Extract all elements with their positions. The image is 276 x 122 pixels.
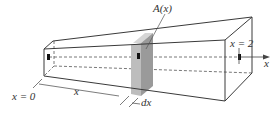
position-label: x (73, 85, 79, 97)
solid-diagram: A(x) x = 2 x x = 0 x dx (0, 0, 276, 122)
right-bottom-diagonal (225, 73, 252, 101)
end-label: x = 2 (229, 37, 254, 49)
back-left-bottom-diagonal (44, 66, 54, 76)
thickness-label: dx (141, 96, 152, 108)
dx-pointer-line (132, 103, 140, 104)
dimension-lines (33, 79, 140, 107)
slice-left-extension-line (120, 96, 129, 105)
x-dimension-line (39, 84, 119, 96)
slice-axis-point (137, 53, 140, 59)
end-axis-point (238, 54, 241, 60)
front-left-top-diagonal (44, 41, 53, 49)
slice-right-extension-line (129, 98, 138, 107)
start-label: x = 0 (11, 90, 36, 102)
axis-label: x (263, 57, 269, 69)
start-axis-point (47, 54, 50, 60)
area-label: A(x) (152, 2, 172, 15)
slice-side-face (141, 33, 153, 96)
start-extension-line (33, 79, 42, 88)
